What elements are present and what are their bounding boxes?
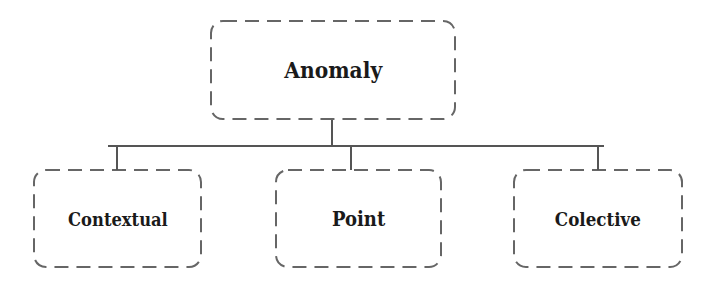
node-contextual-label: Contextual [68, 208, 168, 230]
node-contextual: Contextual [33, 169, 202, 268]
node-point: Point [275, 169, 442, 268]
node-anomaly-label: Anomaly [284, 57, 382, 83]
node-colective: Colective [513, 169, 683, 268]
node-colective-label: Colective [555, 208, 641, 230]
anomaly-taxonomy-diagram: Anomaly Contextual Point Colective [0, 0, 713, 284]
node-anomaly: Anomaly [210, 20, 456, 120]
node-point-label: Point [332, 207, 385, 231]
